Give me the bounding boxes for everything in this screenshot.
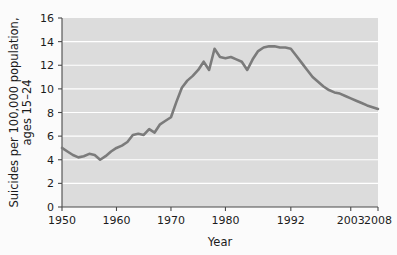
- y-tick-label: 6: [47, 130, 54, 143]
- y-axis-title-line2: ages 15–24: [20, 79, 34, 145]
- line-chart: 0246810121416 19501960197019801992200320…: [0, 0, 397, 255]
- x-tick-label: 1980: [211, 214, 239, 227]
- y-axis-title-line1: Suicides per 100,000 population,: [7, 17, 21, 207]
- y-tick-label: 0: [47, 201, 54, 214]
- chart-figure: 0246810121416 19501960197019801992200320…: [0, 0, 397, 255]
- y-tick-label: 16: [40, 12, 54, 25]
- x-tick-label: 1992: [277, 214, 305, 227]
- x-axis-title: Year: [207, 235, 233, 249]
- y-tick-label: 4: [47, 154, 54, 167]
- x-tick-label: 2008: [364, 214, 392, 227]
- y-tick-label: 2: [47, 177, 54, 190]
- x-tick-label: 1970: [157, 214, 185, 227]
- y-tick-label: 8: [47, 107, 54, 120]
- x-tick-label: 2003: [337, 214, 365, 227]
- y-tick-label: 10: [40, 83, 54, 96]
- y-tick-label: 12: [40, 59, 54, 72]
- x-tick-label: 1960: [102, 214, 130, 227]
- x-tick-label: 1950: [48, 214, 76, 227]
- y-tick-label: 14: [40, 36, 54, 49]
